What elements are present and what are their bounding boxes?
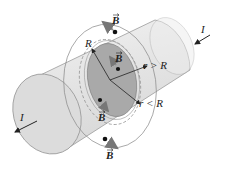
field-point-top	[113, 30, 118, 35]
field-point-inner-bottom	[98, 98, 102, 102]
conductor-field-diagram: I I R r > R r < R B B B B	[0, 0, 225, 169]
current-arrow-right	[195, 35, 210, 44]
radius-label: R	[84, 37, 92, 49]
current-label-right: I	[200, 23, 206, 35]
field-point-bottom	[103, 137, 108, 142]
inside-radius-label: r < R	[139, 97, 163, 109]
field-point-inner-top	[116, 67, 120, 71]
outside-radius-label: r > R	[143, 59, 167, 71]
field-arrow-bottom	[108, 142, 117, 148]
